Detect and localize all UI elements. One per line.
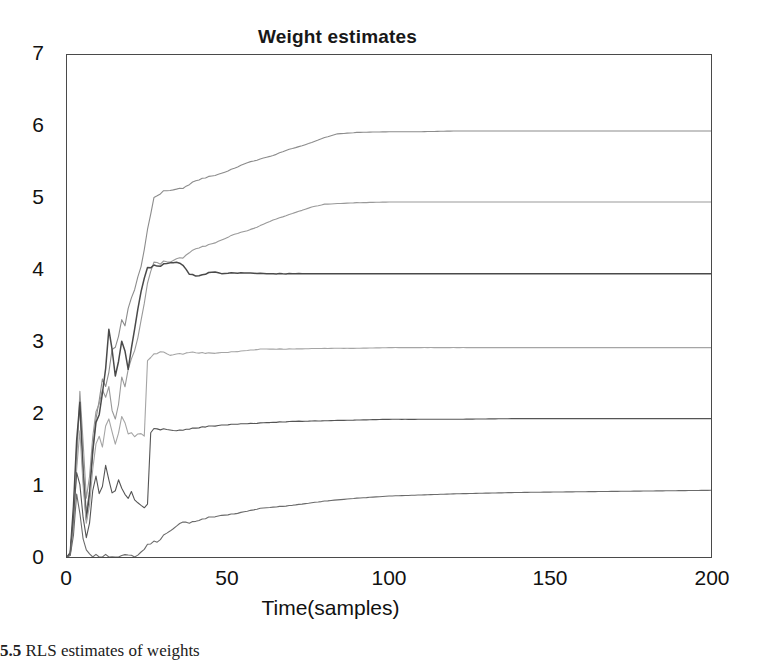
x-axis-label: Time(samples)	[0, 596, 709, 620]
xtick-label-150: 150	[515, 566, 585, 590]
ytick-label-4: 4	[4, 257, 44, 281]
plot-area	[66, 54, 712, 558]
line-series-w4	[67, 348, 711, 557]
figure-container: Weight estimates 7 6 5 4 3 2 1 0 0 50 10…	[0, 0, 757, 660]
ytick-label-2: 2	[4, 401, 44, 425]
xtick-label-0: 0	[31, 566, 101, 590]
line-series-group	[67, 55, 711, 557]
ytick-label-6: 6	[4, 113, 44, 137]
ytick-label-7: 7	[4, 41, 44, 65]
xtick-label-100: 100	[354, 566, 424, 590]
caption-number: 5.5	[0, 641, 21, 660]
xtick-label-200: 200	[677, 566, 747, 590]
xtick-label-50: 50	[192, 566, 262, 590]
ytick-label-5: 5	[4, 185, 44, 209]
line-series-w6	[67, 490, 711, 557]
caption-text: RLS estimates of weights	[26, 641, 200, 660]
page-title: Weight estimates	[0, 26, 716, 48]
figure-caption: 5.5 RLS estimates of weights	[0, 641, 460, 660]
line-series-w5	[67, 419, 711, 557]
line-series-w1	[67, 131, 711, 557]
ytick-label-1: 1	[4, 473, 44, 497]
line-series-w3	[67, 262, 711, 557]
ytick-label-3: 3	[4, 329, 44, 353]
line-series-w2	[67, 202, 711, 557]
